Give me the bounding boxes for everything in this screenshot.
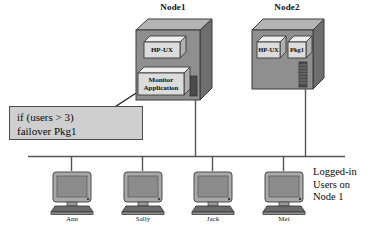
node-node2[interactable]: Node2 HP-UX bbox=[249, 16, 325, 92]
terminal-mei-label: Mei bbox=[260, 215, 308, 223]
node1-chip-hpux[interactable]: HP-UX bbox=[143, 35, 187, 59]
terminal-sally[interactable]: Sally bbox=[119, 171, 167, 219]
monitor-icon bbox=[260, 171, 308, 215]
callout-line-2: failover Pkg1 bbox=[17, 124, 142, 138]
monitor-icon bbox=[48, 171, 96, 215]
node2-chip-pkg1[interactable]: Pkg1 bbox=[287, 35, 313, 59]
node2-chip-hpux-label: HP-UX bbox=[256, 46, 281, 54]
node1-label: Node1 bbox=[133, 2, 213, 12]
terminal-jack-label: Jack bbox=[189, 215, 237, 223]
terminal-ann-label: Ann bbox=[48, 215, 96, 223]
monitor-icon bbox=[189, 171, 237, 215]
node1-chip-monitor-label-line1: Monitor bbox=[137, 76, 185, 84]
terminal-jack[interactable]: Jack bbox=[189, 171, 237, 219]
caption-line-3: Node 1 bbox=[313, 191, 357, 204]
caption-line-2: Users on bbox=[313, 179, 357, 192]
node2-chip-pkg1-label: Pkg1 bbox=[287, 46, 307, 54]
node2-label: Node2 bbox=[249, 2, 325, 12]
terminal-mei[interactable]: Mei bbox=[260, 171, 308, 219]
failover-condition-callout: if (users > 3) failover Pkg1 bbox=[9, 106, 143, 140]
callout-line-1: if (users > 3) bbox=[17, 110, 142, 124]
monitor-icon bbox=[119, 171, 167, 215]
diagram-canvas: Node1 HP-UX M bbox=[0, 0, 368, 232]
terminal-ann[interactable]: Ann bbox=[48, 171, 96, 219]
node1-chip-monitor-label-line2: Application bbox=[137, 84, 185, 92]
node1-chip-hpux-label: HP-UX bbox=[143, 46, 181, 54]
node1-chip-monitor-application[interactable]: Monitor Application bbox=[137, 66, 191, 96]
terminal-sally-label: Sally bbox=[119, 215, 167, 223]
caption-line-1: Logged-in bbox=[313, 166, 357, 179]
node-node1[interactable]: Node1 HP-UX M bbox=[133, 16, 213, 102]
logged-in-users-caption: Logged-in Users on Node 1 bbox=[313, 166, 357, 204]
node2-chip-hpux[interactable]: HP-UX bbox=[256, 35, 287, 59]
